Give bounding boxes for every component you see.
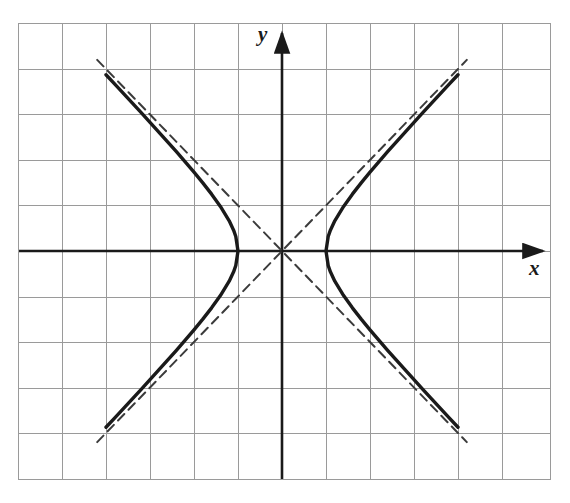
plot-canvas (0, 0, 570, 503)
y-axis-label: y (258, 24, 267, 45)
x-axis-label: x (529, 258, 540, 279)
axes (18, 33, 543, 479)
hyperbola-figure: x y (0, 0, 570, 503)
